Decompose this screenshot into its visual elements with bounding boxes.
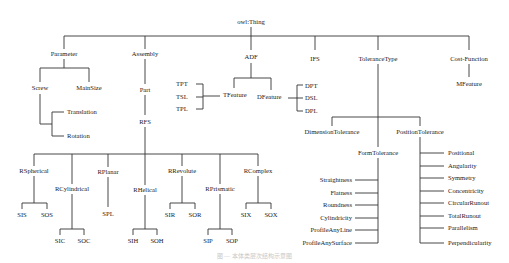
node-flatness: Flatness	[330, 189, 352, 196]
node-dpl: DPL	[305, 107, 317, 114]
node-spl: SPL	[102, 210, 113, 217]
node-six: SIX	[241, 211, 252, 218]
node-sox: SOX	[264, 211, 277, 218]
node-dpt: DPT	[305, 82, 317, 89]
node-rotation: Rotation	[67, 132, 90, 139]
node-sis: SIS	[17, 211, 27, 218]
node-dimension-tolerance: DimensionTolerance	[305, 128, 360, 135]
node-rrevolute: RRevolute	[168, 167, 196, 174]
node-profile-any-line: ProfileAnyLine	[311, 226, 352, 233]
node-soh: SOH	[150, 237, 163, 244]
node-symmetry: Symmetry	[448, 174, 476, 181]
node-assembly: Assembly	[132, 50, 159, 57]
node-rhelical: RHelical	[133, 186, 157, 193]
node-total-runout: TotalRunout	[448, 212, 481, 219]
node-part: Part	[140, 86, 151, 93]
node-tpt: TPT	[176, 80, 188, 87]
ontology-class-hierarchy: owl:Thing Parameter Assembly ADF IFS Tol…	[0, 0, 509, 263]
node-parameter: Parameter	[51, 50, 79, 57]
node-rplanar: RPlanar	[97, 168, 119, 175]
node-roundness: Roundness	[323, 201, 352, 208]
node-cylindricity: Cylindricity	[320, 214, 353, 221]
node-sos: SOS	[41, 211, 53, 218]
node-straightness: Straightness	[320, 176, 353, 183]
node-mainsize: MainSize	[76, 84, 101, 91]
node-rfs: RFS	[139, 118, 151, 125]
node-tolerance-type: ToleranceType	[359, 55, 398, 62]
node-tfeature: TFeature	[223, 91, 247, 98]
node-tsl: TSL	[176, 93, 188, 100]
node-screw: Screw	[32, 84, 49, 91]
node-cost-function: Cost-Function	[450, 55, 488, 62]
node-mfeature: MFeature	[456, 80, 482, 87]
node-soc: SOC	[78, 237, 91, 244]
figure-caption: 图 — 本体类层次结构示意图	[217, 252, 292, 260]
node-translation: Translation	[67, 108, 98, 115]
node-ifs: IFS	[310, 55, 320, 62]
node-position-tolerance: PositionTolerance	[396, 128, 444, 135]
node-profile-any-surface: ProfileAnySurface	[303, 239, 353, 246]
node-owl-thing: owl:Thing	[237, 18, 265, 25]
node-circular-runout: CircularRunout	[448, 199, 489, 206]
node-rcomplex: RComplex	[244, 167, 273, 174]
node-angularity: Angularity	[448, 162, 477, 169]
node-sop: SOP	[226, 237, 238, 244]
node-sih: SIH	[128, 237, 139, 244]
node-dfeature: DFeature	[257, 93, 282, 100]
node-rcylindrical: RCylindrical	[55, 185, 89, 192]
node-perpendicularity: Perpendicularity	[448, 239, 492, 246]
node-rspherical: RSpherical	[19, 167, 48, 174]
node-dsl: DSL	[305, 94, 317, 101]
node-tpl: TPL	[176, 105, 188, 112]
node-positional: Positional	[448, 149, 475, 156]
node-sic: SIC	[55, 237, 66, 244]
node-parallelism: Parallelism	[448, 224, 479, 231]
node-sor: SOR	[189, 211, 202, 218]
node-sir: SIR	[165, 211, 176, 218]
node-adf: ADF	[244, 53, 258, 60]
node-concentricity: Concentricity	[448, 187, 485, 194]
node-rprismatic: RPrismatic	[205, 185, 234, 192]
node-form-tolerance: FormTolerance	[358, 149, 398, 156]
node-sip: SIP	[203, 237, 213, 244]
